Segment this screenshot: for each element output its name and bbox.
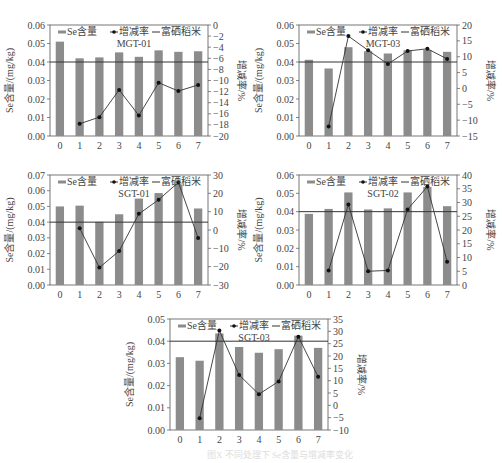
y-tick-label: 0.03 bbox=[148, 358, 166, 369]
y2-tick-label: 30 bbox=[333, 326, 343, 337]
x-tick-label: 0 bbox=[177, 434, 182, 445]
rate-marker bbox=[257, 392, 261, 396]
y2-tick-label: 20 bbox=[333, 351, 343, 362]
rate-marker bbox=[217, 329, 221, 333]
y2-tick-label: 5 bbox=[333, 388, 338, 399]
bar bbox=[235, 347, 243, 430]
legend-label: Se含量 bbox=[187, 319, 217, 331]
rate-marker bbox=[198, 416, 202, 420]
bar bbox=[215, 333, 223, 430]
rate-marker bbox=[277, 379, 281, 383]
bar bbox=[314, 348, 322, 430]
x-tick-label: 7 bbox=[316, 434, 321, 445]
y-tick-label: 0.00 bbox=[148, 425, 166, 436]
legend-label: 富硒稻米 bbox=[281, 319, 321, 331]
y2-tick-label: −5 bbox=[333, 412, 344, 423]
y2-axis-label: 增减率/% bbox=[356, 354, 368, 395]
x-tick-label: 5 bbox=[276, 434, 281, 445]
x-tick-label: 1 bbox=[197, 434, 202, 445]
chart-sgt-03: 0.000.010.020.030.040.05−10−505101520253… bbox=[0, 0, 502, 463]
x-tick-label: 4 bbox=[256, 434, 261, 445]
y-tick-label: 0.04 bbox=[148, 336, 166, 347]
y2-tick-label: 25 bbox=[333, 338, 343, 349]
x-tick-label: 6 bbox=[296, 434, 301, 445]
bar bbox=[294, 336, 302, 430]
figure-caption: 图X 不同处理下 Se含量与增减率变化 bbox=[150, 448, 410, 460]
chart-title: SGT-03 bbox=[238, 332, 269, 343]
y2-tick-label: 10 bbox=[333, 375, 343, 386]
rate-marker bbox=[237, 373, 241, 377]
y-tick-label: 0.02 bbox=[148, 380, 166, 391]
rate-marker bbox=[316, 375, 320, 379]
legend-label: 增减率 bbox=[239, 319, 269, 331]
y-tick-label: 0.01 bbox=[148, 402, 166, 413]
y2-tick-label: −10 bbox=[333, 425, 349, 436]
x-tick-label: 2 bbox=[217, 434, 222, 445]
y2-tick-label: 15 bbox=[333, 363, 343, 374]
y2-tick-label: 35 bbox=[333, 314, 343, 325]
y2-tick-label: 0 bbox=[333, 400, 338, 411]
y-tick-label: 0.05 bbox=[148, 314, 166, 325]
bar bbox=[176, 357, 184, 430]
y-axis-label: Se含量/(mg/kg) bbox=[123, 342, 136, 407]
x-tick-label: 3 bbox=[237, 434, 242, 445]
rate-marker bbox=[296, 335, 300, 339]
bar bbox=[274, 349, 282, 430]
